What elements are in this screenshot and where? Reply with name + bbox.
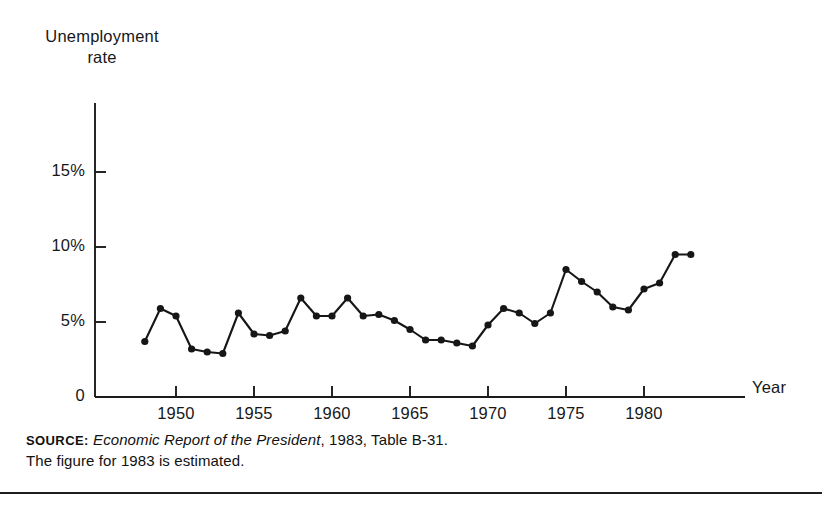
- data-point-1966: [422, 336, 429, 343]
- data-point-1951: [188, 345, 195, 352]
- axes-group: [95, 103, 745, 397]
- data-point-1982: [672, 251, 679, 258]
- source-publication: Economic Report of the President: [93, 431, 320, 448]
- data-point-1980: [640, 285, 647, 292]
- data-point-1956: [266, 332, 273, 339]
- data-point-1962: [360, 312, 367, 319]
- data-point-1961: [344, 294, 351, 301]
- bottom-divider-rule: [0, 492, 822, 494]
- data-point-1952: [204, 348, 211, 355]
- y-tick-label-15: 15%: [27, 161, 85, 180]
- x-tick-label-1960: 1960: [302, 404, 362, 423]
- x-axis-title: Year: [752, 378, 786, 397]
- data-point-1954: [235, 309, 242, 316]
- data-point-1960: [328, 312, 335, 319]
- data-point-1957: [282, 327, 289, 334]
- data-point-1976: [578, 278, 585, 285]
- data-point-1971: [500, 305, 507, 312]
- data-point-1950: [172, 312, 179, 319]
- data-point-1974: [547, 309, 554, 316]
- data-point-1964: [391, 317, 398, 324]
- data-point-1968: [453, 339, 460, 346]
- data-point-1972: [516, 309, 523, 316]
- x-tick-label-1980: 1980: [614, 404, 674, 423]
- source-note: SOURCE: Economic Report of the President…: [26, 430, 448, 471]
- y-tick-label-0: 0: [27, 386, 85, 405]
- data-point-1975: [562, 266, 569, 273]
- data-point-markers: [141, 251, 694, 357]
- source-citation: , 1983, Table B-31.: [321, 431, 449, 448]
- data-point-1969: [469, 342, 476, 349]
- data-point-1979: [625, 306, 632, 313]
- data-point-1973: [531, 320, 538, 327]
- x-tick-label-1965: 1965: [380, 404, 440, 423]
- unemployment-rate-line: [145, 255, 691, 354]
- data-point-1953: [219, 350, 226, 357]
- data-point-1981: [656, 279, 663, 286]
- y-tick-label-10: 10%: [27, 236, 85, 255]
- data-point-1978: [609, 303, 616, 310]
- data-point-1958: [297, 294, 304, 301]
- x-tick-label-1950: 1950: [146, 404, 206, 423]
- x-tick-label-1975: 1975: [536, 404, 596, 423]
- data-point-1959: [313, 312, 320, 319]
- data-point-1967: [438, 336, 445, 343]
- source-keyword: SOURCE:: [26, 433, 89, 448]
- data-point-1955: [250, 330, 257, 337]
- y-axis-title: Unemployment rate: [22, 26, 182, 68]
- data-point-1948: [141, 338, 148, 345]
- x-tick-label-1955: 1955: [224, 404, 284, 423]
- unemployment-rate-figure: Unemployment rate Year 05%10%15%19501955…: [0, 0, 822, 506]
- data-point-1983: [687, 251, 694, 258]
- data-point-1949: [157, 305, 164, 312]
- source-note-line2: The figure for 1983 is estimated.: [26, 451, 448, 471]
- x-tick-label-1970: 1970: [458, 404, 518, 423]
- data-point-1970: [484, 321, 491, 328]
- y-tick-label-5: 5%: [27, 311, 85, 330]
- data-point-1963: [375, 311, 382, 318]
- data-point-1977: [594, 288, 601, 295]
- data-point-1965: [406, 326, 413, 333]
